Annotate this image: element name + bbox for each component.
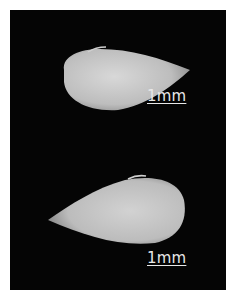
scale-label-bottom: 1mm xyxy=(147,250,186,266)
seed-images xyxy=(0,0,233,299)
scale-label-top: 1mm xyxy=(147,88,186,104)
seed-bottom xyxy=(48,178,185,244)
